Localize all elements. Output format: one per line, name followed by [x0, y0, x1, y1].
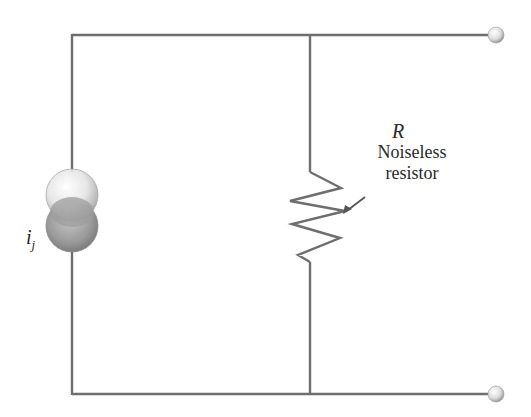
resistor-description: Noiseless resistor: [362, 142, 462, 184]
circuit-diagram: [0, 0, 531, 417]
current-source-label: ij: [26, 226, 35, 253]
top-terminal[interactable]: [488, 27, 504, 43]
arrow-icon: [343, 197, 365, 214]
resistor-description-line1: Noiseless: [362, 142, 462, 163]
resistor-symbol-label: R: [392, 120, 404, 143]
current-source-label-sub: j: [32, 237, 36, 252]
resistor-description-line2: resistor: [362, 163, 462, 184]
resistor-zigzag: [290, 172, 345, 262]
current-source-icon: [46, 169, 98, 252]
bottom-terminal[interactable]: [488, 386, 504, 402]
